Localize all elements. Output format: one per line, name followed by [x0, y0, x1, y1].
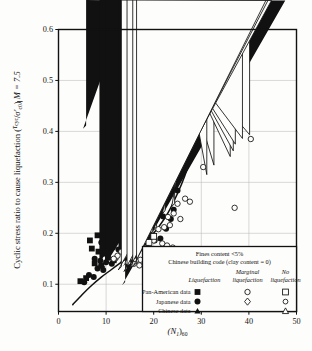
data-point [137, 263, 142, 268]
x-tick-label: 10 [102, 317, 110, 326]
data-point [156, 227, 161, 232]
data-point [146, 240, 152, 246]
data-point [248, 136, 253, 141]
y-tick-label: 0.1 [43, 280, 53, 289]
legend-marker-no-liquefaction [283, 289, 289, 295]
legend-marker-liquefaction [195, 299, 201, 305]
data-point [161, 224, 166, 229]
legend-marker-no-liquefaction [283, 299, 288, 304]
y-tick-label: 0.6 [43, 25, 53, 34]
figure-container: 010203040500.10.20.30.40.50.6 Fines cont… [0, 0, 312, 351]
data-point [187, 199, 192, 204]
data-point [167, 222, 172, 227]
liquefaction-scatter-chart: 010203040500.10.20.30.40.50.6 Fines cont… [0, 0, 312, 351]
data-point [201, 164, 206, 169]
y-tick-label: 0.3 [43, 178, 53, 187]
data-point [83, 275, 89, 281]
x-tick-label: 40 [245, 317, 253, 326]
data-point [91, 274, 97, 280]
legend-row-label: Pan-American data [142, 288, 191, 295]
x-tick-label: 50 [292, 317, 300, 326]
legend-marker-marginal [245, 289, 250, 294]
y-tick-label: 0.5 [43, 76, 53, 85]
x-tick-label: 0 [56, 317, 60, 326]
legend-col3-header-line1: No [281, 268, 289, 275]
x-tick-label: 20 [150, 317, 158, 326]
legend-marker-liquefaction [195, 289, 201, 295]
legend-col2-header: liquefaction [232, 276, 262, 283]
y-tick-label: 0.2 [43, 229, 53, 238]
y-tick-label: 0.4 [43, 127, 53, 136]
data-point [151, 233, 157, 239]
x-tick-label: 30 [197, 317, 205, 326]
data-point [89, 246, 95, 252]
legend-col1-header: Liquefaction [188, 276, 221, 283]
legend-row-label: Japanese data [156, 298, 191, 305]
data-point [78, 278, 84, 284]
data-point [165, 214, 170, 219]
data-point [232, 205, 237, 210]
data-point [171, 211, 176, 216]
data-point [178, 216, 183, 221]
legend-note-line2: Chinese building code (clay content = 0) [168, 258, 271, 266]
data-point [111, 256, 116, 261]
legend-box: Fines content <5%Chinese building code (… [142, 247, 300, 315]
data-point [175, 201, 180, 206]
data-point [87, 238, 93, 244]
legend-col2-header-line1: Marginal [235, 268, 260, 275]
data-point [92, 260, 98, 266]
legend-col3-header: liquefaction [270, 276, 300, 283]
legend-row-label: Chinese data [158, 307, 191, 314]
legend-note-line1: Fines content <5% [196, 250, 244, 257]
